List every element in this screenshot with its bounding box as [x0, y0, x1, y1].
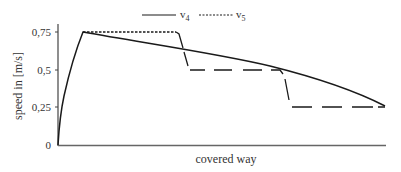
y-ticks: 0,75 0,5 0,25 0: [32, 26, 58, 151]
x-axis-label: covered way: [196, 152, 257, 166]
y-tick-05: 0,5: [37, 64, 51, 76]
y-tick-025: 0,25: [32, 101, 52, 113]
series-v5-segments: [83, 32, 385, 107]
legend: v4 v5: [142, 8, 246, 23]
line-chart: v4 v5 0,75 0,5 0,25 0 speed in [m/s] cov…: [0, 0, 401, 172]
y-tick-0: 0: [46, 139, 52, 151]
legend-v5-label: v5: [236, 8, 246, 23]
series-v4: [58, 32, 385, 145]
legend-v4-label: v4: [180, 8, 190, 23]
y-axis-label: speed in [m/s]: [11, 52, 25, 120]
y-tick-075: 0,75: [32, 26, 52, 38]
